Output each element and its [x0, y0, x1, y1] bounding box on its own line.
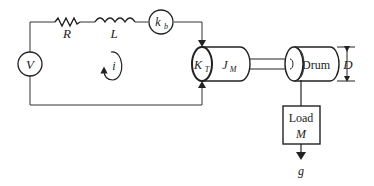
- load-label: Load: [289, 111, 314, 125]
- arrow-down-icon: [198, 40, 206, 47]
- resistor: R: [55, 18, 80, 41]
- inertia-subscript: M: [229, 65, 238, 74]
- inductor-label: L: [109, 26, 117, 41]
- load-mass: Load M: [283, 106, 320, 144]
- resistor-label: R: [62, 26, 71, 41]
- current-label: i: [112, 59, 115, 73]
- shaft: [250, 59, 290, 69]
- motor-cylinder: K T J M: [192, 47, 250, 81]
- diameter-label: D: [342, 57, 353, 72]
- voltage-source: V: [18, 52, 42, 76]
- motor-drum-diagram: V R L k b i K T J M Drum: [0, 0, 374, 186]
- arrow-up-icon: [198, 81, 206, 88]
- current-loop-icon: i: [104, 52, 122, 80]
- back-emf-subscript: b: [164, 22, 168, 31]
- inertia-label: J: [222, 58, 228, 72]
- drum-label: Drum: [302, 58, 331, 72]
- torque-constant-subscript: T: [205, 65, 210, 74]
- torque-constant-label: K: [193, 58, 203, 72]
- gravity-label: g: [298, 164, 304, 178]
- back-emf-source: k b: [149, 10, 173, 34]
- drum: Drum: [285, 47, 339, 81]
- gravity-arrow-icon: [296, 152, 306, 160]
- inductor: L: [95, 18, 135, 41]
- load-mass-label: M: [295, 127, 307, 141]
- back-emf-label: k: [155, 15, 161, 29]
